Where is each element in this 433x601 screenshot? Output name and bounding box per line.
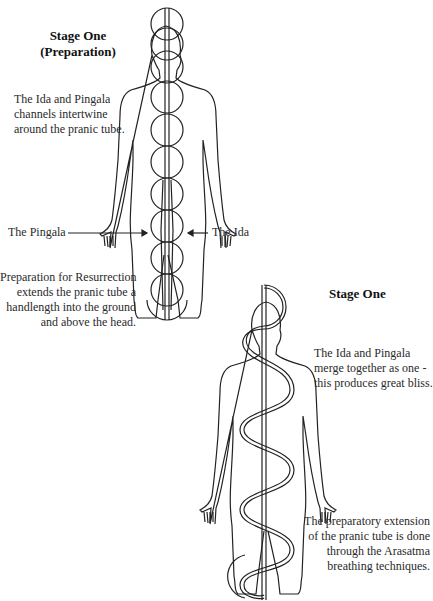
- stage1-title: Stage One: [329, 286, 386, 302]
- stage1-prep-description: The Ida and Pingala channels intertwine …: [14, 92, 125, 137]
- desc-line: around the pranic tube.: [14, 122, 125, 137]
- stage1-prep-title: Stage One (Preparation): [28, 28, 128, 60]
- label-pingala: The Pingala: [8, 225, 66, 240]
- note-line: breathing techniques.: [290, 559, 430, 574]
- desc-line: channels intertwine: [14, 107, 125, 122]
- desc-line: merge together as one -: [314, 361, 433, 376]
- stage1-prep-note: Preparation for Resurrection extends the…: [0, 270, 136, 330]
- note-line: and above the head.: [0, 315, 136, 330]
- stage1-prep-title-line2: (Preparation): [28, 44, 128, 60]
- stage1-prep-title-line1: Stage One: [28, 28, 128, 44]
- stage1-note: The preparatory extension of the pranic …: [290, 514, 430, 574]
- label-ida: The Ida: [212, 225, 249, 240]
- desc-line: this produces great bliss.: [314, 376, 433, 391]
- stage1-description: The Ida and Pingala merge together as on…: [314, 346, 433, 391]
- note-line: of the pranic tube is done: [290, 529, 430, 544]
- note-line: extends the pranic tube a: [0, 285, 136, 300]
- note-line: The preparatory extension: [290, 514, 430, 529]
- note-line: handlength into the ground: [0, 300, 136, 315]
- desc-line: The Ida and Pingala: [14, 92, 125, 107]
- desc-line: The Ida and Pingala: [314, 346, 433, 361]
- note-line: through the Arasatma: [290, 544, 430, 559]
- note-line: Preparation for Resurrection: [0, 270, 136, 285]
